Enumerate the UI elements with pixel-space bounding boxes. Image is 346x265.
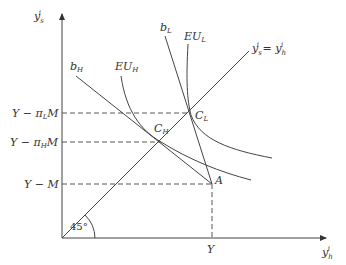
diagram: ysi yhi ysi = yhi 45° Y − πLM Y − πHM Y … (0, 0, 346, 265)
budget-line-bL (165, 36, 212, 184)
label-bH: bH (70, 60, 84, 74)
x-axis-label: yhi (321, 245, 333, 261)
label-bL: bL (160, 21, 172, 35)
label-EUH: EUH (114, 60, 139, 74)
point-CH: CH (154, 122, 169, 136)
diagonal-line (62, 51, 249, 238)
y-axis-label: ysi (33, 9, 44, 25)
tick-y: Y (207, 243, 216, 256)
tick-y-minus-piH-M: Y − πHM (10, 136, 59, 150)
curve-EUL (187, 44, 272, 158)
point-CL: CL (195, 109, 208, 123)
tick-y-minus-M: Y − M (24, 178, 59, 191)
tick-y-minus-piL-M: Y − πLM (12, 107, 59, 121)
angle-label: 45° (70, 221, 88, 232)
budget-line-bH (76, 76, 212, 184)
curve-EUH (121, 76, 251, 180)
label-EUL: EUL (183, 30, 206, 44)
point-A: A (214, 174, 223, 187)
diagonal-label: ysi = yhi (251, 41, 286, 57)
